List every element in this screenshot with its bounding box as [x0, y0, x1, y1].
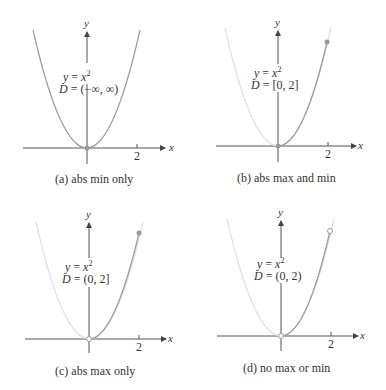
domain-label: D = [0, 2] — [250, 78, 298, 92]
panel-b: x y 2 y = x2 D = [0, 2] (b) abs max and … — [216, 16, 363, 185]
tick-label-2: 2 — [134, 149, 140, 163]
y-axis-label: y — [83, 17, 89, 29]
domain-label: D = (0, 2) — [253, 269, 301, 283]
domain-label: D = (−∞, ∞) — [58, 82, 118, 96]
parabola-domain-segment — [281, 231, 330, 336]
y-axis-label: y — [277, 206, 283, 218]
tick-label-2: 2 — [136, 340, 142, 354]
x-axis-label: x — [359, 329, 365, 341]
caption-b: (b) abs max and min — [237, 171, 336, 185]
y-axis-label: y — [274, 16, 280, 28]
min-point — [85, 146, 90, 151]
figure-abs-extrema: x y 2 y = x2 D = (−∞, ∞) (a) abs min onl… — [0, 0, 386, 390]
max-point — [325, 40, 330, 45]
caption-d: (d) no max or min — [243, 361, 330, 375]
parabola-domain-segment — [278, 42, 327, 146]
x-axis-label: x — [357, 139, 363, 151]
x-axis-label: x — [168, 141, 174, 153]
parabola-domain-segment — [89, 233, 139, 339]
min-point — [276, 144, 281, 149]
open-point-origin — [279, 334, 284, 339]
x-axis-label: x — [167, 332, 173, 344]
tick-label-2: 2 — [328, 337, 334, 351]
panel-d: x y 2 y = x2 D = (0, 2) (d) no max or mi… — [217, 206, 365, 375]
open-point-end — [328, 229, 333, 234]
open-point-origin — [87, 337, 92, 342]
domain-label: D = (0, 2] — [61, 272, 109, 286]
caption-c: (c) abs max only — [55, 364, 135, 378]
panel-c: x y 2 y = x2 D = (0, 2] (c) abs max only — [25, 208, 173, 378]
max-point — [137, 231, 142, 236]
panel-a: x y 2 y = x2 D = (−∞, ∞) (a) abs min onl… — [23, 17, 174, 186]
tick-label-2: 2 — [325, 147, 331, 161]
y-axis-label: y — [85, 208, 91, 220]
caption-a: (a) abs min only — [55, 172, 133, 186]
